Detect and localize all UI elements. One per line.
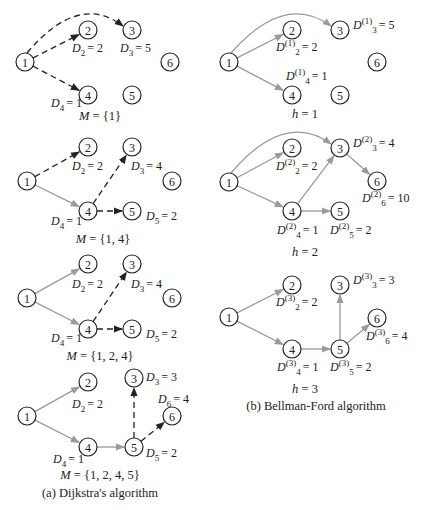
dijkstra-step-2: 123456D2= 2D3= 4D4= 1D5= 2M = {1, 4} xyxy=(18,138,181,246)
node-1: 1 xyxy=(18,289,36,307)
svg-text:3: 3 xyxy=(129,24,135,38)
bellman-ford-set-label: h = 3 xyxy=(292,382,318,396)
edge-1-4 xyxy=(35,185,79,207)
svg-text:5: 5 xyxy=(129,89,135,103)
node-6: 6 xyxy=(163,172,181,190)
node-2: 2 xyxy=(283,276,301,294)
distance-label-6: D(2)6= 10 xyxy=(361,189,409,208)
shortest-path-figure: 123456D2= 2D3= 5D4= 1M = {1}123456D2= 2D… xyxy=(0,0,422,510)
bellman-ford-caption: (b) Bellman-Ford algorithm xyxy=(246,399,386,413)
node-5: 5 xyxy=(125,438,143,456)
distance-label-2: D2= 2 xyxy=(71,397,103,414)
dijkstra-step-4: 123456D2= 2D3= 3D6= 4D4= 1D5= 2M = {1, 2… xyxy=(18,369,189,482)
node-5: 5 xyxy=(331,340,349,358)
node-6: 6 xyxy=(368,172,386,190)
svg-text:2: 2 xyxy=(85,376,91,390)
node-1: 1 xyxy=(18,407,36,425)
node-5: 5 xyxy=(123,320,141,338)
node-6: 6 xyxy=(368,309,386,327)
distance-label-3: D(3)3= 3 xyxy=(352,271,394,290)
svg-text:2: 2 xyxy=(289,24,295,38)
svg-text:2: 2 xyxy=(85,141,91,155)
node-5: 5 xyxy=(331,86,349,104)
svg-text:5: 5 xyxy=(337,205,343,219)
edge-1-4 xyxy=(35,420,79,442)
svg-text:3: 3 xyxy=(337,279,343,293)
svg-text:2: 2 xyxy=(85,24,91,38)
distance-label-4: D4= 1 xyxy=(52,452,84,469)
bellman-ford-step-1: 123456D(1)3= 5D(1)2= 2D(1)4= 1h = 1 xyxy=(220,14,394,121)
svg-text:6: 6 xyxy=(167,56,173,70)
svg-text:3: 3 xyxy=(337,142,343,156)
bellman-ford-set-label: h = 2 xyxy=(292,245,318,259)
svg-text:4: 4 xyxy=(289,205,295,219)
node-6: 6 xyxy=(163,289,181,307)
svg-text:1: 1 xyxy=(24,292,30,306)
distance-label-3: D(2)3= 4 xyxy=(352,134,394,153)
svg-text:5: 5 xyxy=(131,441,137,455)
svg-text:6: 6 xyxy=(374,312,380,326)
distance-label-5: D(2)5= 2 xyxy=(329,221,371,240)
distance-label-2: D(2)2= 2 xyxy=(275,157,317,176)
node-1: 1 xyxy=(220,173,238,191)
svg-text:1: 1 xyxy=(226,56,232,70)
edge-1-4 xyxy=(237,66,283,90)
distance-label-5: D5= 2 xyxy=(145,209,177,226)
distance-label-3: D3= 4 xyxy=(130,277,162,294)
distance-label-4: D(3)4= 1 xyxy=(276,358,318,377)
svg-text:2: 2 xyxy=(289,279,295,293)
node-2: 2 xyxy=(79,138,97,156)
distance-label-3: D3= 3 xyxy=(145,370,177,387)
dijkstra-set-label: M = {1, 2, 4} xyxy=(66,349,134,363)
node-2: 2 xyxy=(79,21,97,39)
svg-text:1: 1 xyxy=(22,56,28,70)
svg-text:4: 4 xyxy=(85,441,91,455)
svg-text:4: 4 xyxy=(85,205,91,219)
dijkstra-step-3: 123456D2= 2D3= 4D4= 1D5= 2M = {1, 2, 4} xyxy=(18,255,181,363)
svg-text:3: 3 xyxy=(129,141,135,155)
svg-text:5: 5 xyxy=(337,89,343,103)
distance-label-2: D(1)2= 2 xyxy=(275,38,317,57)
svg-text:5: 5 xyxy=(129,323,135,337)
node-4: 4 xyxy=(283,202,301,220)
svg-text:6: 6 xyxy=(169,410,175,424)
distance-label-6: D(3)6= 4 xyxy=(365,327,407,346)
node-3: 3 xyxy=(331,276,349,294)
node-2: 2 xyxy=(283,21,301,39)
node-5: 5 xyxy=(123,86,141,104)
svg-text:2: 2 xyxy=(289,142,295,156)
node-2: 2 xyxy=(79,255,97,273)
dijkstra-caption: (a) Dijkstra's algorithm xyxy=(42,486,158,500)
distance-label-4: D(2)4= 1 xyxy=(276,221,318,240)
svg-text:3: 3 xyxy=(131,372,137,386)
distance-label-4: D4= 1 xyxy=(50,96,82,113)
distance-label-4: D4= 1 xyxy=(50,331,82,348)
bellman-ford-step-3: 123456D(3)3= 3D(3)2= 2D(3)6= 4D(3)4= 1D(… xyxy=(220,271,407,396)
distance-label-5: D(3)5= 2 xyxy=(329,358,371,377)
svg-text:4: 4 xyxy=(85,89,91,103)
dijkstra-panel: 123456D2= 2D3= 5D4= 1M = {1}123456D2= 2D… xyxy=(16,14,189,482)
node-3: 3 xyxy=(331,139,349,157)
svg-text:4: 4 xyxy=(85,323,91,337)
distance-label-2: D2= 2 xyxy=(71,41,103,58)
edge-5-6 xyxy=(141,422,164,441)
distance-label-2: D2= 2 xyxy=(71,277,103,294)
node-1: 1 xyxy=(18,172,36,190)
edge-1-4 xyxy=(33,66,79,90)
svg-text:4: 4 xyxy=(289,343,295,357)
node-2: 2 xyxy=(283,139,301,157)
node-1: 1 xyxy=(220,53,238,71)
node-1: 1 xyxy=(220,308,238,326)
node-2: 2 xyxy=(79,373,97,391)
node-3: 3 xyxy=(125,369,143,387)
bellman-ford-step-2: 123456D(2)3= 4D(2)2= 2D(2)6= 10D(2)4= 1D… xyxy=(220,132,409,259)
distance-label-2: D2= 2 xyxy=(71,159,103,176)
svg-text:1: 1 xyxy=(226,176,232,190)
edge-3-6 xyxy=(347,154,370,174)
dijkstra-set-label: M = {1, 4} xyxy=(75,232,130,246)
node-4: 4 xyxy=(283,86,301,104)
distance-label-3: D(1)3= 5 xyxy=(352,16,394,35)
distance-label-5: D5= 2 xyxy=(145,446,177,463)
node-5: 5 xyxy=(123,202,141,220)
bellman-ford-set-label: h = 1 xyxy=(292,107,318,121)
